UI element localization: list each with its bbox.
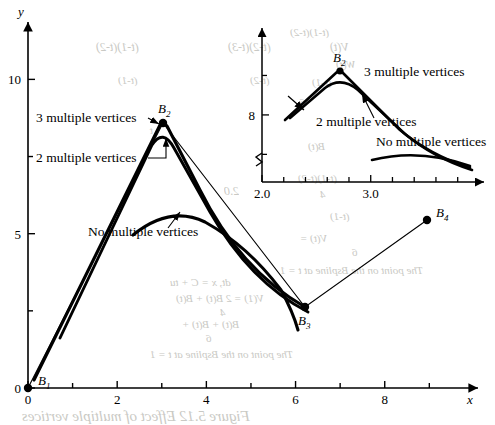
point-label-B4-text: B xyxy=(436,205,444,220)
leader-three-multiple-vertices xyxy=(148,118,159,124)
annotation-no-multiple-vertices: No multiple vertices xyxy=(88,224,198,239)
inset-annotations: 3 multiple vertices 2 multiple vertices … xyxy=(288,64,486,149)
point-label-B2-text: B xyxy=(158,101,166,116)
inset-x-ticks: 2.03.0 xyxy=(254,175,458,201)
point-B4 xyxy=(423,216,431,224)
main-y-tick-label: 10 xyxy=(8,72,21,87)
main-y-tick-label: 0 xyxy=(15,381,22,396)
point-label-B4-sub: 4 xyxy=(444,213,449,223)
inset-point-label-B2-sub: 2 xyxy=(341,58,346,68)
main-x-tick-label: 6 xyxy=(292,392,299,407)
main-y-ticks: 0510 xyxy=(8,72,35,396)
point-B3 xyxy=(301,303,309,311)
main-x-ticks: 02468 xyxy=(25,381,430,407)
main-x-tick-label: 4 xyxy=(203,392,210,407)
point-B2 xyxy=(159,119,167,127)
point-label-B2: B 2 xyxy=(158,101,171,119)
point-label-B3-text: B xyxy=(298,313,306,328)
annotation-two-multiple-vertices: 2 multiple vertices xyxy=(36,150,136,165)
point-label-B3: B 3 xyxy=(298,313,311,331)
point-label-B2-sub: 2 xyxy=(166,109,171,119)
inset-axis-break-icon xyxy=(256,153,262,166)
point-label-B3-sub: 3 xyxy=(305,321,311,331)
annotation-three-multiple-vertices: 3 multiple vertices xyxy=(36,110,136,125)
inset-annotation-two-multiple-vertices: 2 multiple vertices xyxy=(316,114,416,129)
main-x-tick-label: 0 xyxy=(25,392,32,407)
inset-point-label-B2-text: B xyxy=(333,50,341,65)
point-label-B1-sub: 1 xyxy=(46,381,51,391)
main-y-tick-label: 5 xyxy=(15,227,22,242)
inset-annotation-three-multiple-vertices: 3 multiple vertices xyxy=(364,64,464,79)
inset-annotation-no-multiple-vertices: No multiple vertices xyxy=(376,134,486,149)
point-B1 xyxy=(24,384,32,392)
point-label-B1-text: B xyxy=(38,373,46,388)
inset-y-tick-label: 8 xyxy=(249,108,256,123)
main-x-tick-label: 8 xyxy=(381,392,388,407)
point-label-B4: B 4 xyxy=(436,205,449,223)
inset-point-B2 xyxy=(336,67,343,74)
main-y-axis-label: y xyxy=(16,4,24,19)
inset-x-tick-label: 3.0 xyxy=(363,186,379,201)
inset-y-ticks: 8 xyxy=(249,75,270,154)
main-x-tick-label: 2 xyxy=(114,392,121,407)
inset-x-tick-label: 2.0 xyxy=(254,186,270,201)
inset-point-label-B2: B 2 xyxy=(333,50,346,68)
main-x-axis-label: x xyxy=(466,392,473,407)
